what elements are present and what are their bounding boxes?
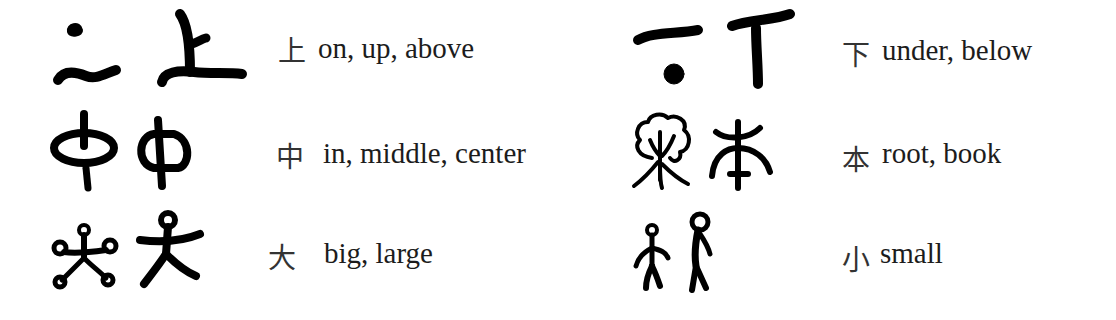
tall-figure-icon <box>680 210 720 294</box>
meaning-text: under, below <box>882 34 1032 67</box>
entry-shang: 上 on, up, above <box>0 0 560 100</box>
entry-xia: 下 under, below <box>560 0 1116 100</box>
entry-xiao: 小 small <box>560 200 1116 300</box>
entry-zhong: 中 in, middle, center <box>0 100 560 200</box>
meaning-text: on, up, above <box>318 32 474 65</box>
bronze-da-icon <box>136 210 208 290</box>
meaning-text: big, large <box>324 237 433 270</box>
meaning-text: root, book <box>882 137 1001 170</box>
bronze-shang-icon <box>158 8 248 86</box>
oracle-bone-xia-icon <box>632 22 712 88</box>
oracle-bone-shang-icon <box>52 12 124 84</box>
modern-character: 中 <box>276 135 304 175</box>
seal-ben-icon <box>708 118 780 194</box>
modern-character: 上 <box>278 29 306 69</box>
oracle-bone-zhong-icon <box>48 110 118 194</box>
modern-character: 小 <box>842 238 870 278</box>
oracle-bone-da-icon <box>52 222 118 290</box>
entry-da: 大 big, large <box>0 200 560 300</box>
modern-character: 下 <box>842 33 870 73</box>
modern-character: 本 <box>842 138 870 178</box>
meaning-text: in, middle, center <box>323 137 526 170</box>
meaning-text: small <box>880 237 943 270</box>
bronze-xia-icon <box>726 10 802 90</box>
small-figure-icon <box>632 222 672 294</box>
tree-roots-ben-icon <box>630 110 700 194</box>
bronze-zhong-icon <box>134 116 194 192</box>
entry-ben: 本 root, book <box>560 100 1116 200</box>
modern-character: 大 <box>268 236 296 276</box>
